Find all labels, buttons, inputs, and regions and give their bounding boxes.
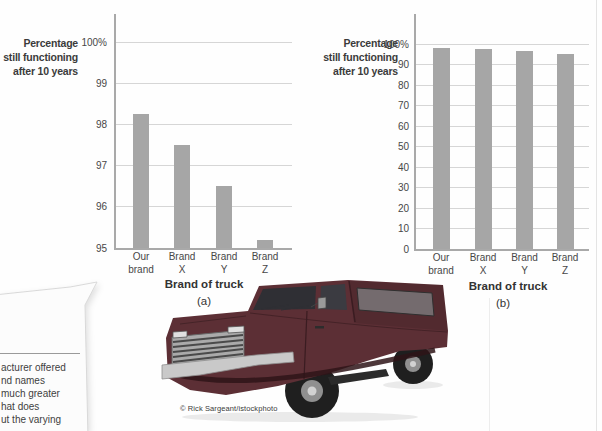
bar-brand-y	[516, 51, 533, 249]
x-category-label: Brand Y	[201, 251, 247, 276]
callout-text: acturer offered nd names much greater ha…	[1, 361, 85, 426]
x-axis-line	[114, 248, 292, 250]
x-axis-line	[414, 249, 589, 251]
chart-b-x-axis-title: Brand of truck	[448, 280, 568, 292]
bar-brand-z	[557, 54, 574, 249]
bar-brand-y	[216, 186, 232, 248]
x-category-label: Our brand	[118, 251, 164, 276]
y-tick-label: 98	[62, 119, 107, 130]
x-category-label: Brand Z	[542, 252, 588, 277]
y-tick-label: 50	[364, 141, 409, 152]
callout-divider	[0, 353, 80, 354]
truck-photo	[160, 276, 450, 424]
x-category-label: Brand Y	[502, 252, 548, 277]
x-category-label: Brand X	[460, 252, 506, 277]
y-tick-label: 97	[62, 160, 107, 171]
y-tick-label: 70	[364, 100, 409, 111]
y-axis-line	[114, 14, 116, 249]
y-tick-label: 80	[364, 80, 409, 91]
bar-our-brand	[433, 48, 450, 249]
gridline	[416, 44, 589, 45]
y-tick-label: 96	[62, 201, 107, 212]
y-tick-label: 60	[364, 121, 409, 132]
column-edge-line	[489, 298, 490, 431]
y-tick-label: 90	[364, 59, 409, 70]
y-tick-label: 100%	[364, 39, 409, 50]
y-axis-line	[414, 14, 416, 250]
y-tick-label: 100%	[62, 37, 107, 48]
y-tick-label: 30	[364, 182, 409, 193]
photo-credit: © Rick Sargeant/istockphoto	[180, 404, 277, 413]
bar-brand-x	[174, 145, 190, 248]
gridline	[116, 83, 292, 84]
chart-b-sublabel: (b)	[473, 297, 533, 309]
textbook-figure-page: Percentage still functioning after 10 ye…	[0, 0, 602, 431]
x-category-label: Our brand	[418, 252, 464, 277]
y-tick-label: 20	[364, 203, 409, 214]
bar-our-brand	[133, 114, 149, 248]
y-tick-label: 0	[364, 244, 409, 255]
y-tick-label: 10	[364, 223, 409, 234]
x-category-label: Brand X	[159, 251, 205, 276]
bar-brand-x	[475, 49, 492, 249]
bar-brand-z	[257, 240, 273, 248]
x-category-label: Brand Z	[242, 251, 288, 276]
gridline	[116, 42, 292, 43]
page-edge-line	[596, 0, 597, 431]
y-tick-label: 95	[62, 243, 107, 254]
y-tick-label: 99	[62, 78, 107, 89]
y-tick-label: 40	[364, 162, 409, 173]
